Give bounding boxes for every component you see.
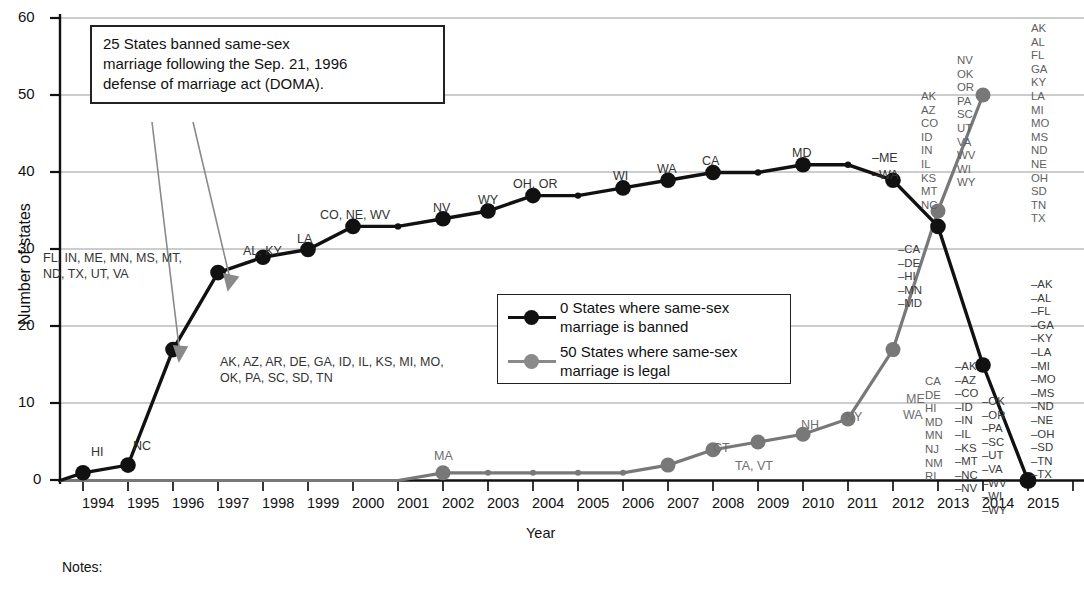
chart-legend[interactable]: 0 States where same-sex marriage is bann… (497, 294, 791, 384)
point-label-2009-ia-vt: TA, VT (735, 460, 773, 473)
x-tick-1999: 1999 (307, 496, 339, 511)
column-banned-removed-2013-low: –AK –AZ –CO –ID –IN –IL –KS –MT –NC –NV (955, 360, 978, 496)
x-tick-1996: 1996 (172, 496, 204, 511)
legend-label-legal: 50 States where same-sex marriage is leg… (560, 342, 738, 380)
legend-marker-legal-icon (504, 350, 560, 372)
y-axis-title: Number of states (16, 203, 34, 325)
x-tick-1994: 1994 (82, 496, 114, 511)
point-label-2006-wi: WI (613, 170, 628, 183)
callout-arrows (152, 122, 238, 361)
legend-banned-line2: marriage is banned (560, 318, 688, 335)
legend-banned-line1: 0 States where same-sex (560, 299, 729, 316)
point-label-2010-md: MD (792, 147, 811, 160)
x-tick-1995: 1995 (127, 496, 159, 511)
y-tick-30: 30 (18, 240, 35, 255)
x-tick-2002: 2002 (442, 496, 474, 511)
legend-legal-line2: marriage is legal (560, 362, 670, 379)
column-legal-2013-lower: CA DE HI MD MN NJ NM RI (925, 375, 943, 484)
point-label-1996-list-b: OK, PA, SC, SD, TN (220, 372, 333, 385)
point-label-2003-wy: WY (478, 194, 498, 207)
x-tick-2012: 2012 (892, 496, 924, 511)
doma-callout: 25 States banned same-sex marriage follo… (90, 25, 445, 104)
legend-legal-line1: 50 States where same-sex (560, 343, 738, 360)
legend-item-banned[interactable]: 0 States where same-sex marriage is bann… (498, 295, 790, 339)
x-tick-2008: 2008 (712, 496, 744, 511)
point-label-2010-nh: NH (801, 419, 819, 432)
legend-item-legal[interactable]: 50 States where same-sex marriage is leg… (498, 339, 790, 383)
column-banned-removed-2013-top: –CA –DE –HI –MN –MD (898, 243, 922, 311)
x-tick-2015: 2015 (1027, 496, 1059, 511)
x-tick-1997: 1997 (217, 496, 249, 511)
point-label-2003-ma: MA (434, 450, 453, 463)
legend-marker-banned-icon (504, 306, 560, 328)
y-tick-60: 60 (18, 9, 35, 24)
point-label-1999-la: LA (297, 233, 312, 246)
y-ticks (50, 18, 60, 480)
point-label-2012-me-removed: –ME (872, 152, 898, 165)
point-label-1998-al-ky: AL, KY (243, 245, 282, 258)
x-tick-2001: 2001 (397, 496, 429, 511)
point-label-1997-list-a: FL, IN, ME, MN, MS, MT, (43, 252, 182, 265)
x-tick-2011: 2011 (847, 496, 878, 511)
x-tick-2003: 2003 (487, 496, 519, 511)
y-tick-0: 0 (33, 471, 41, 486)
column-banned-removed-2015: –AK –AL –FL –GA –KY –LA –MI –MO –MS –ND … (1031, 278, 1056, 482)
callout-line-1: 25 States banned same-sex (103, 34, 433, 54)
y-tick-40: 40 (18, 163, 35, 178)
point-label-2012-me: ME (906, 393, 925, 406)
column-legal-2014: NV OK OR PA SC UT VA WV WI WY (957, 54, 975, 190)
column-banned-removed-2014: –OK –OR –PA –SC –UT –VA –WV –WI –WY (982, 395, 1007, 517)
x-tick-2007: 2007 (667, 496, 699, 511)
x-tick-2000: 2000 (352, 496, 384, 511)
column-legal-2015: AK AL FL GA KY LA MI MO MS ND NE OH SD T… (1031, 22, 1049, 226)
x-tick-2004: 2004 (532, 496, 564, 511)
point-label-2007-wa: WA (657, 163, 677, 176)
x-tick-2005: 2005 (577, 496, 609, 511)
y-tick-20: 20 (18, 317, 35, 332)
legend-label-banned: 0 States where same-sex marriage is bann… (560, 298, 729, 336)
point-label-2004-oh-or: OH, OR (513, 178, 557, 191)
point-label-2008-ct: CT (713, 442, 730, 455)
chart-figure: Number of states 60 50 40 30 20 10 0 199… (0, 0, 1084, 590)
point-label-2008-ca: CA (702, 155, 719, 168)
y-tick-10: 10 (18, 394, 35, 409)
point-label-1996-list-a: AK, AZ, AR, DE, GA, ID, IL, KS, MI, MO, (220, 356, 444, 369)
x-tick-2013: 2013 (937, 496, 969, 511)
y-tick-50: 50 (18, 86, 35, 101)
point-label-2011-ny: NY (845, 411, 862, 424)
x-tick-2010: 2010 (802, 496, 834, 511)
x-tick-2009: 2009 (757, 496, 789, 511)
column-legal-2013: AK AZ CO ID IN IL KS MT NC (921, 90, 938, 212)
notes-label: Notes: (62, 559, 102, 575)
x-tick-2006: 2006 (622, 496, 654, 511)
point-label-1997-list-b: ND, TX, UT, VA (43, 268, 129, 281)
point-label-1995-nc: NC (133, 440, 151, 453)
point-label-1994-hi: HI (91, 446, 104, 459)
point-label-2002-nv: NV (433, 202, 450, 215)
x-axis-title: Year (526, 526, 555, 541)
point-label-2012-wa-removed: –WA (872, 169, 899, 182)
callout-line-2: marriage following the Sep. 21, 1996 (103, 54, 433, 74)
callout-line-3: defense of marriage act (DOMA). (103, 74, 433, 94)
point-label-2000-co-ne-wv: CO, NE, WV (320, 209, 390, 222)
point-label-2012-wa: WA (903, 409, 923, 422)
x-tick-1998: 1998 (262, 496, 294, 511)
